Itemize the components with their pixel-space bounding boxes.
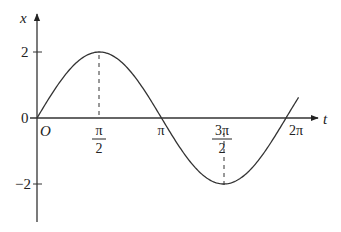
- x-axis-label: t: [323, 111, 328, 127]
- x-tick-label-pi-over-2-den: 2: [96, 141, 103, 156]
- x-tick-label-3pi-over-2-den: 2: [219, 141, 226, 156]
- x-tick-label-pi: π: [157, 123, 164, 138]
- x-tick-label-2pi: 2π: [289, 123, 303, 138]
- y-tick-label-2: 2: [21, 44, 29, 60]
- origin-label: O: [40, 123, 51, 139]
- chart: x t O 2 0 −2 π 2 π 3π 2 2π: [0, 0, 341, 232]
- x-tick-label-pi-over-2-num: π: [95, 123, 102, 138]
- x-tick-label-3pi-over-2-num: 3π: [215, 123, 229, 138]
- y-axis-label: x: [19, 10, 27, 26]
- y-tick-label-0: 0: [21, 110, 29, 126]
- y-tick-label-neg2: −2: [15, 176, 31, 192]
